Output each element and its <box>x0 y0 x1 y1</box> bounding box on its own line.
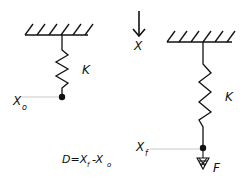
right-spring-label: K <box>225 90 234 104</box>
force-arrow-icon <box>197 151 209 169</box>
right-spring <box>199 42 211 148</box>
right-mass-dot <box>200 145 206 151</box>
formula-middle: -X <box>92 153 104 166</box>
formula-prefix: D=X <box>62 153 88 166</box>
spring-diagram: K X o X K X f F D=X f -X o <box>0 0 250 183</box>
axis-label: X <box>133 39 143 53</box>
right-position-label: X <box>135 140 145 154</box>
left-position-subscript: o <box>22 103 27 112</box>
right-ceiling <box>167 31 235 42</box>
down-arrow-icon <box>133 11 145 36</box>
left-position-label: X <box>12 94 22 108</box>
left-mass-dot <box>59 94 65 100</box>
left-spring-label: K <box>82 63 91 77</box>
force-label: F <box>213 161 221 175</box>
right-position-subscript: f <box>145 149 149 158</box>
formula-subscript-f: f <box>87 161 91 169</box>
left-ceiling <box>25 24 93 35</box>
displacement-formula: D=X f -X o <box>62 153 111 169</box>
formula-subscript-o: o <box>107 161 111 169</box>
left-spring <box>56 35 68 97</box>
